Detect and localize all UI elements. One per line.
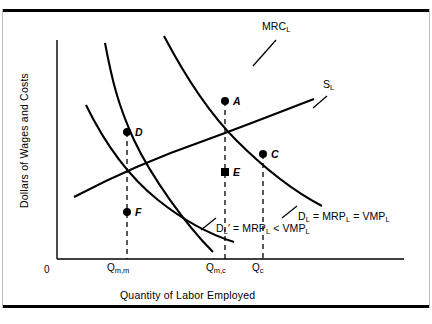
curve-mrc-l [105, 43, 213, 252]
tick-label-origin: 0 [44, 264, 50, 275]
tick-label-qmc: Qm,c [206, 262, 226, 275]
point-marker-a [221, 97, 229, 105]
y-axis-title: Dollars of Wages and Costs [18, 78, 30, 208]
curve-label-d-l-prime: DL′ = MRPL < VMPL [216, 222, 310, 236]
tick-label-qmm: Qm,m [107, 262, 129, 275]
economics-diagram-figure: Dollars of Wages and Costs Quantity of L… [0, 0, 432, 324]
curve-label-s-l: SL [323, 78, 334, 92]
curve-label-mrc-l: MRCL [262, 20, 291, 34]
leader-line-d-upper [282, 206, 297, 218]
plot-canvas [0, 0, 432, 324]
point-label-e: E [233, 166, 240, 178]
point-label-a: A [233, 95, 241, 107]
tick-label-qc: Qc [252, 262, 264, 275]
curve-label-d-l: DL = MRPL = VMPL [298, 210, 390, 224]
point-label-d: D [135, 126, 143, 138]
point-label-c: C [271, 148, 279, 160]
point-label-f: F [135, 206, 141, 218]
x-axis-title: Quantity of Labor Employed [120, 289, 255, 301]
point-marker-e [221, 168, 229, 176]
point-marker-f [123, 208, 131, 216]
curve-d-l [164, 36, 322, 206]
leader-line-s [313, 96, 327, 108]
leader-line-d-lower [201, 218, 216, 230]
point-marker-c [259, 150, 267, 158]
point-marker-d [123, 128, 131, 136]
leader-line-mrc [253, 40, 276, 66]
